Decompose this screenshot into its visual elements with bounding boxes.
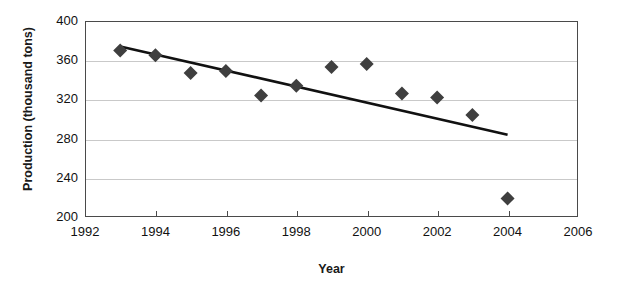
production-scatter-chart: Production (thousand tons) 2002402803203…	[0, 0, 625, 295]
gridline	[86, 100, 577, 101]
gridline	[86, 140, 577, 141]
x-tick-mark	[368, 211, 369, 216]
y-tick-label: 280	[38, 132, 78, 145]
gridline	[86, 61, 577, 62]
y-tick-label: 200	[38, 210, 78, 223]
y-tick-label: 320	[38, 92, 78, 105]
y-axis-title: Production (thousand tons)	[21, 0, 35, 219]
x-tick-label: 2006	[548, 224, 608, 239]
x-tick-mark	[227, 211, 228, 216]
x-tick-label: 2000	[337, 224, 397, 239]
x-tick-label: 1998	[266, 224, 326, 239]
x-tick-label: 2002	[407, 224, 467, 239]
x-tick-mark	[509, 211, 510, 216]
x-tick-mark	[438, 211, 439, 216]
x-tick-label: 1994	[125, 224, 185, 239]
x-tick-mark	[297, 211, 298, 216]
gridline	[86, 179, 577, 180]
x-axis-title: Year	[85, 262, 578, 276]
y-tick-label: 360	[38, 53, 78, 66]
x-tick-label: 2004	[478, 224, 538, 239]
y-tick-label: 400	[38, 14, 78, 27]
x-tick-mark	[156, 211, 157, 216]
plot-area	[85, 21, 578, 217]
x-tick-label: 1996	[196, 224, 256, 239]
y-tick-label: 240	[38, 171, 78, 184]
x-tick-label: 1992	[55, 224, 115, 239]
